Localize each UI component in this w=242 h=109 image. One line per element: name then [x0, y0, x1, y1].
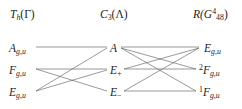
line-eplus-to-egu [124, 48, 199, 69]
connection-lines [0, 0, 242, 109]
line-egu-to-a [36, 48, 107, 91]
correlation-diagram: Th(Γ) C3(Λ) R(G448) Ag,u Fg,u Eg,u A E+ … [0, 0, 242, 109]
line-a-to-f2gu [121, 48, 196, 69]
line-eminus-to-egu [124, 48, 199, 91]
line-a-to-f1gu [121, 48, 196, 91]
